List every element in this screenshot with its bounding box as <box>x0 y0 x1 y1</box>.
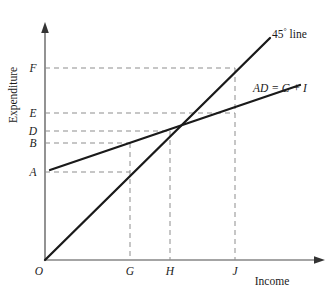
y-tick-label-f: F <box>28 62 37 74</box>
origin-label: O <box>35 265 44 277</box>
aggregate-demand-line <box>50 85 300 170</box>
x-tick-labels-group: O G H J <box>35 265 239 277</box>
y-axis-title: Expenditure <box>7 67 20 123</box>
curves-group <box>45 38 300 260</box>
keynesian-cross-figure: F E D B A O G H J Expenditure Income 45°… <box>0 0 333 291</box>
forty-five-degree-line <box>45 38 270 260</box>
diagram-canvas: F E D B A O G H J Expenditure Income 45°… <box>0 0 333 291</box>
x-axis-title: Income <box>255 275 289 287</box>
y-tick-label-e: E <box>28 107 36 119</box>
x-axis-arrowhead <box>314 256 325 264</box>
aggregate-demand-line-label: AD = C + I <box>252 82 308 94</box>
x-tick-label-j: J <box>232 265 238 277</box>
y-tick-label-a: A <box>28 166 37 178</box>
y-tick-labels-group: F E D B A <box>28 62 38 178</box>
x-tick-label-h: H <box>165 265 175 277</box>
y-tick-label-b: B <box>29 137 36 149</box>
x-tick-label-g: G <box>126 265 135 277</box>
y-axis-arrowhead <box>41 22 49 33</box>
y-tick-label-d: D <box>28 125 38 137</box>
forty-five-degree-line-label: 45° line <box>272 27 307 40</box>
forty-five-degree-label-text: line <box>287 28 307 40</box>
forty-five-degree-label-number: 45 <box>272 28 284 40</box>
